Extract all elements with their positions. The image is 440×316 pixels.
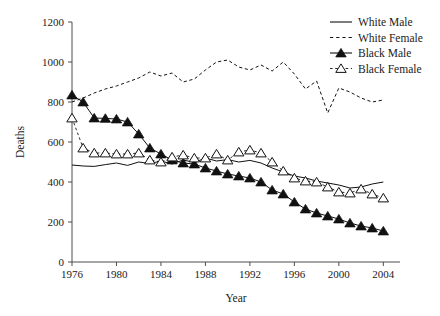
chart-figure: 19761980198419881992199620002004 0200400… [0,0,440,316]
data-point-marker [334,214,344,223]
data-point-marker [134,148,144,157]
y-axis-tick-label: 1000 [42,56,65,68]
data-point-marker [323,211,333,220]
y-axis-title: Deaths [14,126,26,158]
series-black-female [67,113,389,201]
data-point-marker [345,188,355,197]
data-point-marker [334,187,344,196]
legend-item-label: White Male [358,16,413,28]
data-point-marker [311,208,321,217]
chart-legend: White MaleWhite FemaleBlack MaleBlack Fe… [330,16,423,75]
y-axis-tick-label: 400 [48,176,65,188]
deaths-by-race-and-sex-line-chart: 19761980198419881992199620002004 0200400… [0,0,440,316]
data-point-marker [378,226,388,235]
x-axis-title: Year [225,292,246,304]
series-line [72,60,383,113]
x-axis-tick-label: 1984 [150,268,173,280]
data-point-marker [256,148,266,157]
data-point-marker [356,221,366,230]
legend-item-black-male[interactable]: Black Male [330,47,411,59]
x-axis-tick-label: 2000 [328,268,351,280]
data-point-marker [278,189,288,198]
data-point-marker [234,147,244,156]
data-point-marker [67,113,77,122]
y-axis-ticks [68,22,72,262]
x-axis-tick-label: 1980 [105,268,128,280]
x-axis-tick-label: 1976 [61,268,84,280]
y-axis-tick-label: 800 [48,96,65,108]
chart-series-layer [67,60,389,235]
y-axis-tick-label: 600 [48,136,65,148]
data-point-marker [345,218,355,227]
y-axis-tick-label: 1200 [42,16,65,28]
x-axis-ticks [72,262,383,266]
x-axis-tick-label: 1988 [194,268,217,280]
legend-item-label: Black Female [358,63,422,75]
data-point-marker [178,158,188,167]
data-point-marker [178,150,188,159]
data-point-marker [267,185,277,194]
chart-axes: 19761980198419881992199620002004 0200400… [42,16,400,280]
data-point-marker [78,143,88,152]
x-axis-tick-label: 1992 [239,268,261,280]
data-point-marker [200,153,210,162]
data-point-marker [211,149,221,158]
data-point-marker [100,148,110,157]
x-axis-tick-label: 2004 [372,268,395,280]
x-axis-tick-labels: 19761980198419881992199620002004 [61,268,395,280]
data-point-marker [378,193,388,202]
series-white-female [72,60,383,113]
data-point-marker [167,152,177,161]
data-point-marker [222,169,232,178]
data-point-marker [67,90,77,99]
x-axis-tick-label: 1996 [283,268,306,280]
legend-item-label: White Female [358,32,423,44]
data-point-marker [145,143,155,152]
data-point-marker [78,97,88,106]
y-axis-tick-label: 200 [48,216,65,228]
data-point-marker [367,189,377,198]
data-point-marker [289,197,299,206]
legend-item-white-male[interactable]: White Male [330,16,413,28]
data-point-marker [245,145,255,154]
legend-item-white-female[interactable]: White Female [330,32,423,44]
y-axis-tick-label: 0 [59,256,65,268]
data-point-marker [200,163,210,172]
data-point-marker [122,117,132,126]
data-point-marker [300,204,310,213]
data-point-marker [256,177,266,186]
legend-item-black-female[interactable]: Black Female [330,63,422,75]
y-axis-tick-labels: 020040060080010001200 [42,16,65,268]
legend-item-label: Black Male [358,47,411,59]
data-point-marker [211,166,221,175]
data-point-marker [145,155,155,164]
